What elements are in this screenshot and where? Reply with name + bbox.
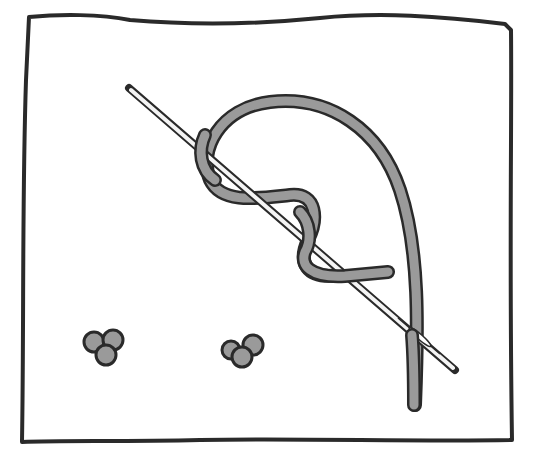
illustration: French knot embroidery stitch: [0, 0, 534, 454]
french-knot-diagram: [0, 0, 534, 454]
fabric-outline: [22, 15, 512, 442]
